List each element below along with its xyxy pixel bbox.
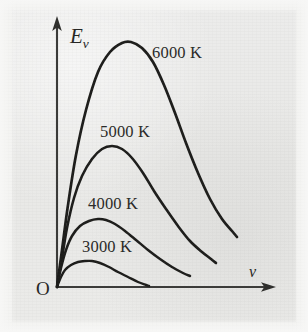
curve-3000k <box>57 261 149 287</box>
blackbody-spectrum-chart: Eν ν O 6000 K 5000 K 4000 K 3000 K <box>0 0 308 332</box>
curve-5000k <box>57 146 216 287</box>
y-axis-label: Eν <box>69 24 89 51</box>
figure-root: Eν ν O 6000 K 5000 K 4000 K 3000 K <box>0 0 308 332</box>
x-axis <box>57 282 276 292</box>
curve-annotation-4000k: 4000 K <box>88 194 138 213</box>
origin-label: O <box>36 278 50 299</box>
curve-annotation-5000k: 5000 K <box>100 122 150 141</box>
y-axis-label-subscript: ν <box>83 36 89 51</box>
y-axis-label-main: E <box>69 24 83 48</box>
y-axis <box>52 16 62 287</box>
curve-annotation-3000k: 3000 K <box>82 237 132 256</box>
x-axis-label: ν <box>249 263 257 280</box>
curve-annotation-6000k: 6000 K <box>152 43 202 62</box>
